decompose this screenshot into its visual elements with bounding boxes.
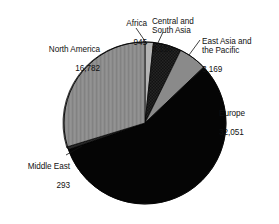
slice-label-east-asia-and-the-pacific-name: East Asia and the Pacific	[202, 37, 274, 56]
slice-label-europe-name: Europe	[219, 109, 275, 119]
slice-label-north-america: North America 16,782	[22, 35, 100, 83]
slice-label-africa: Africa 945	[103, 9, 147, 57]
slice-label-africa-name: Africa	[103, 19, 147, 29]
slice-label-east-asia-and-the-pacific-value: 3,169	[202, 65, 274, 75]
slice-label-middle-east-name: Middle East	[4, 162, 70, 172]
slice-label-north-america-value: 16,782	[22, 64, 100, 74]
slice-label-north-america-name: North America	[22, 45, 100, 55]
slice-label-middle-east-value: 293	[4, 181, 70, 191]
slice-label-europe: Europe 32,051	[219, 99, 275, 147]
pie-chart-figure: Africa 945 Central and South Asia 3,156 …	[0, 0, 279, 224]
slice-label-middle-east: Middle East 293	[4, 152, 70, 200]
slice-label-africa-value: 945	[103, 38, 147, 48]
slice-label-east-asia-and-the-pacific: East Asia and the Pacific 3,169	[202, 27, 274, 85]
slice-label-europe-value: 32,051	[219, 128, 275, 138]
